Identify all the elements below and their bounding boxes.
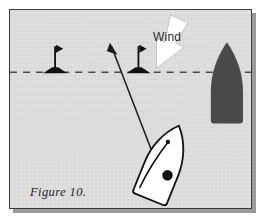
- wind-label: Wind: [153, 30, 181, 44]
- figure-root: Wind Figure 10.: [0, 0, 266, 224]
- figure-caption: Figure 10.: [30, 185, 86, 200]
- sailing-diagram: [10, 10, 251, 208]
- figure-frame: Wind Figure 10.: [9, 9, 252, 209]
